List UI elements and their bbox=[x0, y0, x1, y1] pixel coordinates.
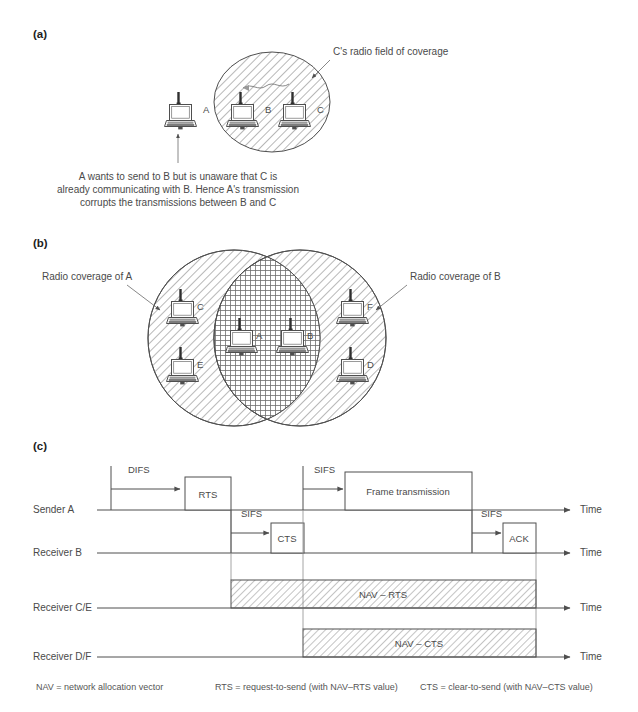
panel-b-node-a-label: A bbox=[256, 330, 263, 341]
panel-a-node-a bbox=[165, 92, 197, 129]
time-axis-label-receiver-df: Time bbox=[580, 651, 602, 662]
row-label-receiver-b: Receiver B bbox=[33, 547, 82, 558]
row-label-sender-a: Sender A bbox=[33, 504, 74, 515]
panel-a-coverage-ellipse-c bbox=[214, 52, 330, 152]
panel-b-coverage-b-leader bbox=[376, 285, 407, 310]
panel-b-node-f-label: F bbox=[367, 301, 373, 312]
time-axis-label-sender-a: Time bbox=[580, 504, 602, 515]
frame-rts-label: RTS bbox=[199, 489, 218, 500]
panel-b-node-b-label: B bbox=[307, 330, 313, 341]
panel-a-node-c-label: C bbox=[317, 104, 324, 115]
legend-cts: CTS = clear-to-send (with NAV–CTS value) bbox=[420, 682, 593, 692]
legend-rts: RTS = request-to-send (with NAV–RTS valu… bbox=[215, 682, 398, 692]
panel-b-node-e-label: E bbox=[197, 359, 203, 370]
panel-b-node-c-label: C bbox=[197, 301, 204, 312]
time-axis-label-receiver-b: Time bbox=[580, 547, 602, 558]
frame-transmission-label: Frame transmission bbox=[366, 486, 449, 497]
panel-b-coverage-a-label: Radio coverage of A bbox=[42, 271, 132, 282]
row-label-receiver-ce: Receiver C/E bbox=[33, 602, 92, 613]
legend-nav: NAV = network allocation vector bbox=[36, 682, 163, 692]
sifs-b-cts-label: SIFS bbox=[241, 508, 262, 519]
frame-cts-label: CTS bbox=[278, 533, 297, 544]
sifs-sender-label: SIFS bbox=[314, 464, 335, 475]
panel-b-coverage-a-leader bbox=[127, 285, 160, 310]
panel-a-node-a-label: A bbox=[203, 104, 210, 115]
panel-b-coverage-b-label: Radio coverage of B bbox=[410, 271, 501, 282]
panel-a-caption-line-2: already communicating with B. Hence A's … bbox=[57, 184, 299, 195]
panel-c-label: (c) bbox=[33, 440, 47, 452]
sifs-b-ack-label: SIFS bbox=[481, 508, 502, 519]
time-axis-label-receiver-ce: Time bbox=[580, 602, 602, 613]
panel-a-coverage-label: C's radio field of coverage bbox=[333, 46, 449, 57]
frame-nav-rts-label: NAV – RTS bbox=[359, 589, 407, 600]
frame-nav-cts-label: NAV – CTS bbox=[395, 638, 443, 649]
panel-b-label: (b) bbox=[33, 237, 48, 249]
panel-a-caption-line-3: corrupts the transmissions between B and… bbox=[80, 197, 276, 208]
panel-a-node-b-label: B bbox=[265, 104, 271, 115]
figure-canvas: (a) C's radio field of coverage A B C A … bbox=[0, 0, 638, 712]
panel-b-node-d-label: D bbox=[367, 359, 374, 370]
frame-ack-label: ACK bbox=[509, 533, 529, 544]
panel-a-label: (a) bbox=[33, 28, 47, 40]
panel-a-caption-line-1: A wants to send to B but is unaware that… bbox=[79, 171, 277, 182]
figure-wireless-hidden-terminal: (a) C's radio field of coverage A B C A … bbox=[0, 0, 638, 712]
row-label-receiver-df: Receiver D/F bbox=[33, 651, 91, 662]
difs-label: DIFS bbox=[128, 464, 150, 475]
